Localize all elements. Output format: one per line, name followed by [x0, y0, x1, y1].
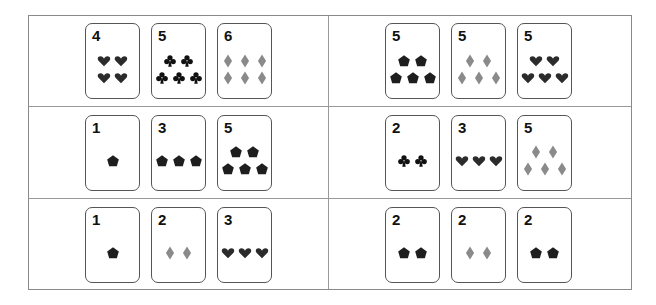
club-icon: [414, 154, 428, 168]
pentagon-icon: [414, 54, 428, 68]
playing-card[interactable]: 3: [451, 115, 506, 191]
card-rank: 2: [392, 119, 400, 136]
heart-icon: [221, 246, 235, 260]
card-rank: 2: [524, 211, 532, 228]
heart-icon: [114, 71, 128, 85]
card-pips: [152, 46, 205, 92]
playing-card[interactable]: 5: [451, 23, 506, 99]
playing-card[interactable]: 2: [151, 207, 206, 283]
playing-card[interactable]: 5: [217, 115, 272, 191]
card-rank: 2: [158, 211, 166, 228]
diamond-icon: [221, 54, 235, 68]
pentagon-icon: [189, 154, 203, 168]
diamond-icon: [480, 246, 494, 260]
card-rank: 4: [92, 27, 100, 44]
card-rank: 5: [524, 27, 532, 44]
diamond-icon: [546, 145, 560, 159]
pentagon-icon: [172, 154, 186, 168]
playing-card[interactable]: 6: [217, 23, 272, 99]
diamond-icon: [521, 162, 535, 176]
pentagon-icon: [106, 154, 120, 168]
card-pips: [218, 230, 271, 276]
card-pips: [518, 46, 571, 92]
card-pips: [86, 46, 139, 92]
diamond-icon: [555, 162, 569, 176]
heart-icon: [555, 71, 569, 85]
grid-cell: 235: [329, 107, 628, 198]
diamond-icon: [163, 246, 177, 260]
club-icon: [172, 71, 186, 85]
playing-card[interactable]: 5: [151, 23, 206, 99]
playing-card[interactable]: 2: [517, 207, 572, 283]
playing-card[interactable]: 5: [517, 115, 572, 191]
card-rank: 5: [524, 119, 532, 136]
pentagon-icon: [414, 246, 428, 260]
pentagon-icon: [389, 71, 403, 85]
heart-icon: [97, 54, 111, 68]
diamond-icon: [489, 71, 503, 85]
card-pips: [86, 138, 139, 184]
heart-icon: [538, 71, 552, 85]
club-icon: [180, 54, 194, 68]
pentagon-icon: [229, 145, 243, 159]
heart-icon: [455, 154, 469, 168]
heart-icon: [546, 54, 560, 68]
playing-card[interactable]: 1: [85, 115, 140, 191]
diamond-icon: [463, 246, 477, 260]
diamond-icon: [463, 54, 477, 68]
card-rank: 6: [224, 27, 232, 44]
card-rank: 5: [458, 27, 466, 44]
playing-card[interactable]: 3: [151, 115, 206, 191]
grid-cell: 555: [329, 16, 628, 106]
pentagon-icon: [397, 54, 411, 68]
card-puzzle-grid: 456555135235123222: [28, 15, 632, 290]
heart-icon: [97, 71, 111, 85]
pentagon-icon: [423, 71, 437, 85]
card-pips: [452, 138, 505, 184]
heart-icon: [529, 54, 543, 68]
card-pips: [518, 138, 571, 184]
club-icon: [163, 54, 177, 68]
diamond-icon: [238, 54, 252, 68]
diamond-icon: [255, 54, 269, 68]
playing-card[interactable]: 4: [85, 23, 140, 99]
card-rank: 3: [158, 119, 166, 136]
heart-icon: [472, 154, 486, 168]
grid-cell: 123: [29, 199, 328, 290]
pentagon-icon: [106, 246, 120, 260]
grid-cell: 456: [29, 16, 328, 106]
card-pips: [218, 138, 271, 184]
diamond-icon: [480, 54, 494, 68]
playing-card[interactable]: 5: [385, 23, 440, 99]
card-rank: 2: [458, 211, 466, 228]
card-rank: 3: [458, 119, 466, 136]
playing-card[interactable]: 3: [217, 207, 272, 283]
pentagon-icon: [255, 162, 269, 176]
playing-card[interactable]: 2: [451, 207, 506, 283]
card-rank: 1: [92, 211, 100, 228]
playing-card[interactable]: 2: [385, 207, 440, 283]
card-pips: [218, 46, 271, 92]
pentagon-icon: [155, 154, 169, 168]
playing-card[interactable]: 2: [385, 115, 440, 191]
playing-card[interactable]: 1: [85, 207, 140, 283]
card-pips: [86, 230, 139, 276]
card-rank: 2: [392, 211, 400, 228]
pentagon-icon: [397, 246, 411, 260]
pentagon-icon: [238, 162, 252, 176]
playing-card[interactable]: 5: [517, 23, 572, 99]
pentagon-icon: [246, 145, 260, 159]
diamond-icon: [238, 71, 252, 85]
club-icon: [189, 71, 203, 85]
card-rank: 3: [224, 211, 232, 228]
diamond-icon: [455, 71, 469, 85]
pentagon-icon: [406, 71, 420, 85]
diamond-icon: [180, 246, 194, 260]
diamond-icon: [529, 145, 543, 159]
diamond-icon: [221, 71, 235, 85]
card-pips: [386, 46, 439, 92]
grid-cell: 135: [29, 107, 328, 198]
club-icon: [397, 154, 411, 168]
heart-icon: [255, 246, 269, 260]
card-rank: 1: [92, 119, 100, 136]
